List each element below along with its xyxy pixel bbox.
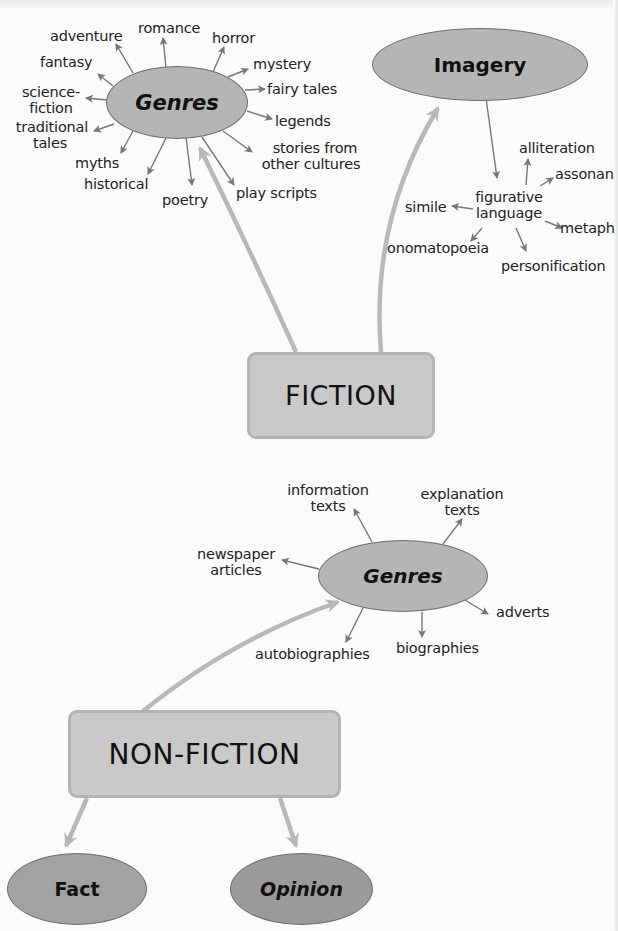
genre-traditional-tales: traditional tales [10,119,94,151]
genre-mystery: mystery [253,56,311,72]
genre-play-scripts: play scripts [236,185,317,201]
figure-personification: personification [501,258,606,274]
fiction-label: FICTION [285,380,397,411]
genre-fairy-tales: fairy tales [267,81,337,97]
nonfiction-to-opinion-arrow [280,798,296,846]
fact-label: Fact [54,878,99,900]
genre-poetry: poetry [162,192,208,208]
figure-onomatopoeia: onomatopoeia [387,240,489,256]
genre-adverts: adverts [496,604,549,620]
genre-autobiographies: autobiographies [255,646,370,662]
fiction-box: FICTION [247,352,435,439]
figure-assonance: assonan [555,166,614,182]
genre-adventure: adventure [50,28,122,44]
nonfiction-label: NON-FICTION [109,738,301,771]
fiction-to-imagery-arrow [379,108,438,352]
nonfiction-genres-label: Genres [363,564,443,588]
genre-historical: historical [84,176,148,192]
opinion-label: Opinion [260,878,343,900]
fiction-genres-oval: Genres [106,66,248,139]
fact-oval: Fact [7,853,147,925]
opinion-oval: Opinion [230,853,373,925]
figurative-language: figurative language [470,189,548,221]
genre-newspaper-articles: newspaper articles [194,546,278,578]
nonfiction-to-fact-arrow [66,798,87,846]
genre-science-fiction: science- fiction [18,84,84,116]
genre-explanation-texts: explanation texts [412,486,512,518]
genre-biographies: biographies [396,640,479,656]
fiction-to-genres-arrow [200,148,296,352]
genre-legends: legends [275,113,331,129]
imagery-oval: Imagery [372,28,588,101]
fiction-genres-label: Genres [135,91,219,115]
genre-myths: myths [75,155,119,171]
genre-information-texts: information texts [278,482,378,514]
genre-stories-from-other-cultures: stories from other cultures [255,140,367,172]
figure-alliteration: alliteration [519,140,595,156]
nonfiction-box: NON-FICTION [68,710,341,798]
figure-metaphor: metaph [560,220,615,236]
genre-romance: romance [138,20,200,36]
genre-fantasy: fantasy [40,54,93,70]
imagery-label: Imagery [434,53,527,77]
imagery-arrows [452,98,562,251]
genre-horror: horror [212,30,255,46]
nonfiction-genres-oval: Genres [318,540,488,612]
figure-simile: simile [405,199,447,215]
